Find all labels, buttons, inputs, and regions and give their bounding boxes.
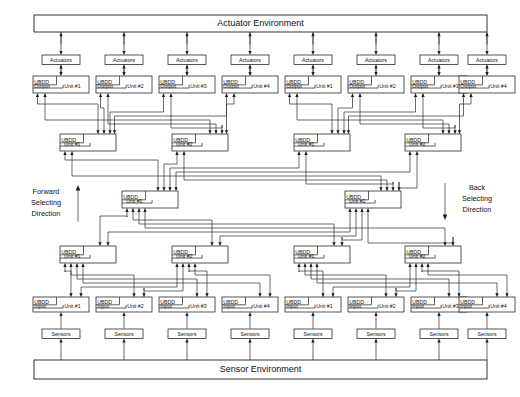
tier4-unit-2: UBDDUnit #2 bbox=[172, 246, 228, 263]
sensors-box-7-label: Sensors bbox=[429, 331, 448, 337]
diagram-boxes: Actuator EnvironmentSensor EnvironmentAc… bbox=[31, 15, 515, 379]
tier2-unit-4-label: Unit #2 bbox=[409, 141, 426, 147]
actuators-box-4: Actuators bbox=[231, 55, 269, 65]
input-unit-1: UBDDInputUnit #1 bbox=[33, 297, 89, 312]
sensors-box-1: Sensors bbox=[42, 329, 80, 339]
tier3-unit-2-label: Unit #2 bbox=[349, 198, 366, 204]
sensors-box-6: Sensors bbox=[357, 329, 395, 339]
tier2-unit-2-label: Unit #2 bbox=[176, 141, 193, 147]
sensors-box-3: Sensors bbox=[168, 329, 206, 339]
actuators-box-8: Actuators bbox=[468, 55, 506, 65]
sensors-box-5: Sensors bbox=[294, 329, 332, 339]
actuators-box-4-label: Actuators bbox=[239, 57, 261, 63]
tier3-unit-1: UBDDUnit #1 bbox=[122, 191, 178, 208]
input-unit-6: UBDDInputUnit #2 bbox=[348, 297, 404, 312]
sensors-box-8-label: Sensors bbox=[477, 331, 496, 337]
forward-direction-line-3: Direction bbox=[32, 209, 61, 218]
tier2-unit-1: UBDDUnit #1 bbox=[60, 134, 116, 151]
tier4-unit-1: UBDDUnit #1 bbox=[60, 246, 116, 263]
output-unit-4: UBDDOutputUnit #4 bbox=[222, 76, 278, 93]
output-unit-1: UBDDOutputUnit #1 bbox=[33, 76, 89, 93]
sensors-box-5-label: Sensors bbox=[303, 331, 322, 337]
sensors-box-3-label: Sensors bbox=[177, 331, 196, 337]
actuators-box-1: Actuators bbox=[42, 55, 80, 65]
output-unit-5-label: Unit #1 bbox=[316, 83, 333, 89]
input-unit-1-label: Input bbox=[34, 303, 46, 309]
sensors-box-1-label: Sensors bbox=[51, 331, 70, 337]
input-unit-3: UBDDInputUnit #3 bbox=[159, 297, 215, 312]
sensors-box-6-label: Sensors bbox=[366, 331, 385, 337]
input-unit-8: UBDDInputUnit #4 bbox=[459, 297, 515, 312]
input-unit-4: UBDDInputUnit #4 bbox=[222, 297, 278, 312]
actuators-box-6-label: Actuators bbox=[365, 57, 387, 63]
output-unit-8-label: Output bbox=[460, 83, 476, 89]
diagram-canvas: Actuator EnvironmentSensor EnvironmentAc… bbox=[0, 0, 520, 397]
actuators-box-2: Actuators bbox=[105, 55, 143, 65]
output-unit-6-label: Unit #2 bbox=[379, 83, 396, 89]
back-direction-line-2: Selecting bbox=[462, 194, 492, 203]
output-unit-8-label: Unit #4 bbox=[490, 83, 507, 89]
tier3-unit-1-label: Unit #1 bbox=[126, 198, 143, 204]
output-unit-7-label: Output bbox=[412, 83, 428, 89]
input-unit-3-label: Unit #3 bbox=[190, 303, 207, 309]
output-unit-6: UBDDOutputUnit #2 bbox=[348, 76, 404, 93]
sensors-box-2-label: Sensors bbox=[114, 331, 133, 337]
output-unit-8: UBDDOutputUnit #4 bbox=[459, 76, 515, 93]
output-unit-7: UBDDOutputUnit #3 bbox=[411, 76, 467, 93]
actuators-box-1-label: Actuators bbox=[50, 57, 72, 63]
tier2-unit-1-label: Unit #1 bbox=[64, 141, 81, 147]
ubdd-hierarchical-network-diagram: Actuator EnvironmentSensor EnvironmentAc… bbox=[0, 0, 520, 397]
back-direction-line-1: Back bbox=[469, 183, 486, 192]
actuators-box-7: Actuators bbox=[420, 55, 458, 65]
output-unit-3-label: Unit #3 bbox=[190, 83, 207, 89]
actuators-box-8-label: Actuators bbox=[476, 57, 498, 63]
output-unit-5: UBDDOutputUnit #1 bbox=[285, 76, 341, 93]
actuators-box-7-label: Actuators bbox=[428, 57, 450, 63]
tier4-unit-4: UBDDUnit #2 bbox=[405, 246, 461, 263]
output-unit-1-label: Output bbox=[34, 83, 50, 89]
actuators-box-5-label: Actuators bbox=[302, 57, 324, 63]
input-unit-4-label: Unit #4 bbox=[253, 303, 270, 309]
actuators-box-3: Actuators bbox=[168, 55, 206, 65]
tier2-unit-2: UBDDUnit #2 bbox=[172, 134, 228, 151]
sensors-box-7: Sensors bbox=[420, 329, 458, 339]
tier3-unit-2: UBDDUnit #2 bbox=[345, 191, 401, 208]
up-arrow-icon bbox=[76, 185, 81, 191]
input-unit-7-label: Input bbox=[412, 303, 424, 309]
actuators-box-6: Actuators bbox=[357, 55, 395, 65]
input-unit-2: UBDDInputUnit #2 bbox=[96, 297, 152, 312]
back-direction-line-3: Direction bbox=[463, 205, 492, 214]
actuators-box-5: Actuators bbox=[294, 55, 332, 65]
input-unit-2-label: Input bbox=[97, 303, 109, 309]
actuators-box-2-label: Actuators bbox=[113, 57, 135, 63]
output-unit-1-label: Unit #1 bbox=[64, 83, 81, 89]
sensors-box-2: Sensors bbox=[105, 329, 143, 339]
sensors-box-4-label: Sensors bbox=[240, 331, 259, 337]
output-unit-2-label: Output bbox=[97, 83, 113, 89]
output-unit-3: UBDDOutputUnit #3 bbox=[159, 76, 215, 93]
output-unit-2: UBDDOutputUnit #2 bbox=[96, 76, 152, 93]
input-unit-3-label: Input bbox=[160, 303, 172, 309]
input-unit-8-label: Unit #4 bbox=[490, 303, 507, 309]
output-unit-5-label: Output bbox=[286, 83, 302, 89]
actuator-environment: Actuator Environment bbox=[34, 15, 487, 32]
forward-selecting-direction: ForwardSelectingDirection bbox=[31, 185, 80, 222]
input-unit-2-label: Unit #2 bbox=[127, 303, 144, 309]
input-unit-7-label: Unit #3 bbox=[442, 303, 459, 309]
input-unit-4-label: Input bbox=[223, 303, 235, 309]
forward-direction-line-1: Forward bbox=[33, 187, 60, 196]
output-unit-3-label: Output bbox=[160, 83, 176, 89]
sensor-environment-label: Sensor Environment bbox=[220, 364, 302, 374]
tier4-unit-2-label: Unit #2 bbox=[176, 253, 193, 259]
tier4-unit-1-label: Unit #1 bbox=[64, 253, 81, 259]
tier4-unit-4-label: Unit #2 bbox=[409, 253, 426, 259]
tier4-unit-3-label: Unit #1 bbox=[298, 253, 315, 259]
output-unit-2-label: Unit #2 bbox=[127, 83, 144, 89]
input-unit-6-label: Unit #2 bbox=[379, 303, 396, 309]
forward-direction-line-2: Selecting bbox=[31, 198, 61, 207]
input-unit-5: UBDDInputUnit #1 bbox=[285, 297, 341, 312]
sensors-box-4: Sensors bbox=[231, 329, 269, 339]
tier2-unit-3: UBDDUnit #1 bbox=[294, 134, 350, 151]
input-unit-8-label: Input bbox=[460, 303, 472, 309]
sensors-box-8: Sensors bbox=[468, 329, 506, 339]
